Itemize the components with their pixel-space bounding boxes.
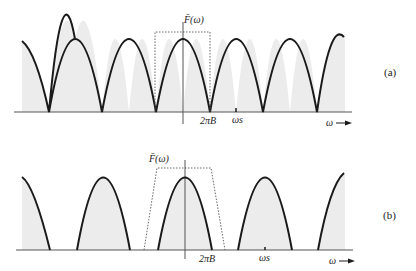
panel-a-ws-label: ωs [232, 114, 243, 125]
panel-b-omega-label: ω [329, 255, 336, 266]
panel-b-ws-label: ωs [259, 252, 270, 263]
panel-b: F̄(ω) 2πB ωs ω (b) [16, 153, 396, 266]
panel-b-2piB-label: 2πB [199, 253, 215, 264]
panel-a-arrow-icon [336, 121, 352, 126]
panel-a-label: (a) [384, 66, 397, 79]
panel-a: F̄(ω) 2πB ωs ω (a) [14, 14, 397, 128]
panel-b-label: (b) [383, 209, 396, 222]
panel-a-2piB-label: 2πB [200, 115, 216, 126]
panel-b-axis-label: F̄(ω) [148, 153, 169, 165]
panel-b-spectrum-fill [22, 173, 345, 250]
panel-b-arrow-icon [339, 259, 355, 264]
panel-a-axis-label: F̄(ω) [183, 14, 204, 26]
panel-a-omega-label: ω [326, 117, 333, 128]
sampling-spectrum-figure: F̄(ω) 2πB ωs ω (a) [0, 0, 416, 271]
